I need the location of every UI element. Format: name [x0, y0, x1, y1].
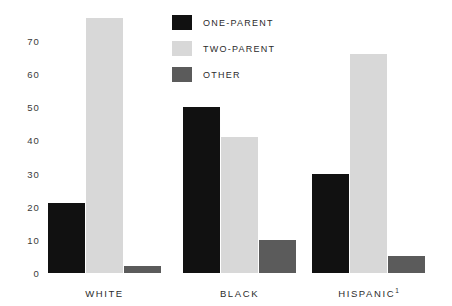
legend-swatch-icon [172, 41, 192, 56]
legend-item-one-parent: ONE-PARENT [172, 12, 302, 33]
bar-group-white: WHITE [48, 0, 166, 273]
bars [48, 0, 166, 273]
footnote-marker: 1 [395, 287, 399, 294]
bar-group-hispanic: HISPANIC1 [312, 0, 430, 273]
bar-black-two-parent [221, 137, 258, 273]
bar-hispanic-two-parent [350, 54, 387, 273]
bar-white-two-parent [86, 18, 123, 273]
bar-hispanic-other [388, 256, 425, 273]
y-axis-tick-0: 0 [34, 268, 40, 279]
y-axis-tick-10: 10 [27, 234, 40, 245]
legend-label: OTHER [203, 70, 241, 80]
bars [312, 0, 430, 273]
bar-white-one-parent [48, 203, 85, 273]
x-axis-label-hispanic: HISPANIC1 [312, 287, 425, 299]
y-axis-tick-50: 50 [27, 102, 40, 113]
legend-label: TWO-PARENT [203, 44, 275, 54]
bar-chart: 010203040506070 WHITEBLACKHISPANIC1 ONE-… [0, 0, 452, 306]
legend-swatch-icon [172, 15, 192, 30]
x-axis-label-black: BLACK [183, 288, 296, 299]
y-axis-tick-20: 20 [27, 201, 40, 212]
chart-legend: ONE-PARENTTWO-PARENTOTHER [172, 12, 302, 90]
legend-label: ONE-PARENT [203, 18, 274, 28]
legend-item-other: OTHER [172, 64, 302, 85]
bar-hispanic-one-parent [312, 174, 349, 273]
y-axis-tick-40: 40 [27, 135, 40, 146]
y-axis-tick-30: 30 [27, 168, 40, 179]
y-axis-tick-60: 60 [27, 69, 40, 80]
y-axis-tick-70: 70 [27, 36, 40, 47]
x-axis-label-white: WHITE [48, 288, 161, 299]
y-axis: 010203040506070 [0, 0, 46, 306]
bar-white-other [124, 266, 161, 273]
legend-item-two-parent: TWO-PARENT [172, 38, 302, 59]
bar-black-one-parent [183, 107, 220, 273]
bar-black-other [259, 240, 296, 273]
legend-swatch-icon [172, 67, 192, 82]
